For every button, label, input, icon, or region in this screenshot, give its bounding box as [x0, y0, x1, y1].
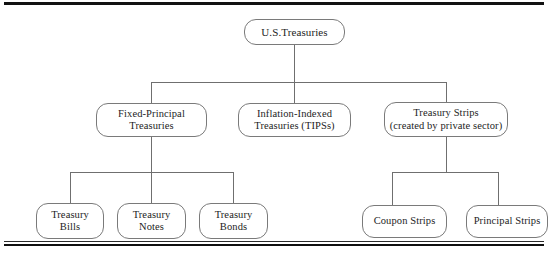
treasury-securities-tree-diagram: U.S.Treasuries Fixed-Principal Treasurie… [0, 0, 548, 254]
node-principal-strips: Principal Strips [466, 205, 548, 238]
connector-stem-treasury-strips [446, 137, 447, 172]
node-us-treasuries: U.S.Treasuries [244, 19, 345, 45]
node-label: Principal Strips [470, 215, 545, 227]
node-label: Inflation-Indexed Treasuries (TIPSs) [250, 108, 338, 133]
bottom-horizontal-rule-thick [4, 244, 544, 246]
connector-drop-treasury-strips [446, 82, 447, 103]
node-label: Treasury Bills [47, 209, 93, 234]
node-label: Treasury Bonds [211, 209, 257, 234]
node-treasury-strips: Treasury Strips (created by private sect… [384, 102, 508, 137]
connector-stem-fixed-principal [151, 137, 152, 172]
node-label: Treasury Strips (created by private sect… [386, 107, 507, 132]
node-label: U.S.Treasuries [257, 26, 331, 39]
connector-drop-treasury-notes [151, 172, 152, 203]
connector-level2-bus [151, 82, 446, 83]
node-fixed-principal-treasuries: Fixed-Principal Treasuries [96, 103, 207, 137]
bottom-horizontal-rule-thin [4, 241, 544, 242]
connector-drop-treasury-bonds [233, 172, 234, 203]
node-treasury-bonds: Treasury Bonds [199, 203, 268, 239]
connector-root-stem [294, 45, 295, 82]
top-horizontal-rule [4, 2, 544, 5]
connector-drop-coupon-strips [392, 172, 393, 205]
node-label: Treasury Notes [129, 209, 175, 234]
connector-drop-fixed-principal [151, 82, 152, 103]
node-label: Fixed-Principal Treasuries [114, 108, 189, 133]
node-inflation-indexed-treasuries: Inflation-Indexed Treasuries (TIPSs) [238, 103, 351, 137]
node-coupon-strips: Coupon Strips [362, 205, 447, 238]
connector-drop-treasury-bills [70, 172, 71, 203]
connector-right-subtree-bus [392, 172, 499, 173]
connector-drop-inflation-indexed [294, 82, 295, 103]
node-treasury-bills: Treasury Bills [36, 203, 104, 239]
connector-drop-principal-strips [498, 172, 499, 205]
node-label: Coupon Strips [370, 215, 440, 227]
node-treasury-notes: Treasury Notes [117, 203, 186, 239]
